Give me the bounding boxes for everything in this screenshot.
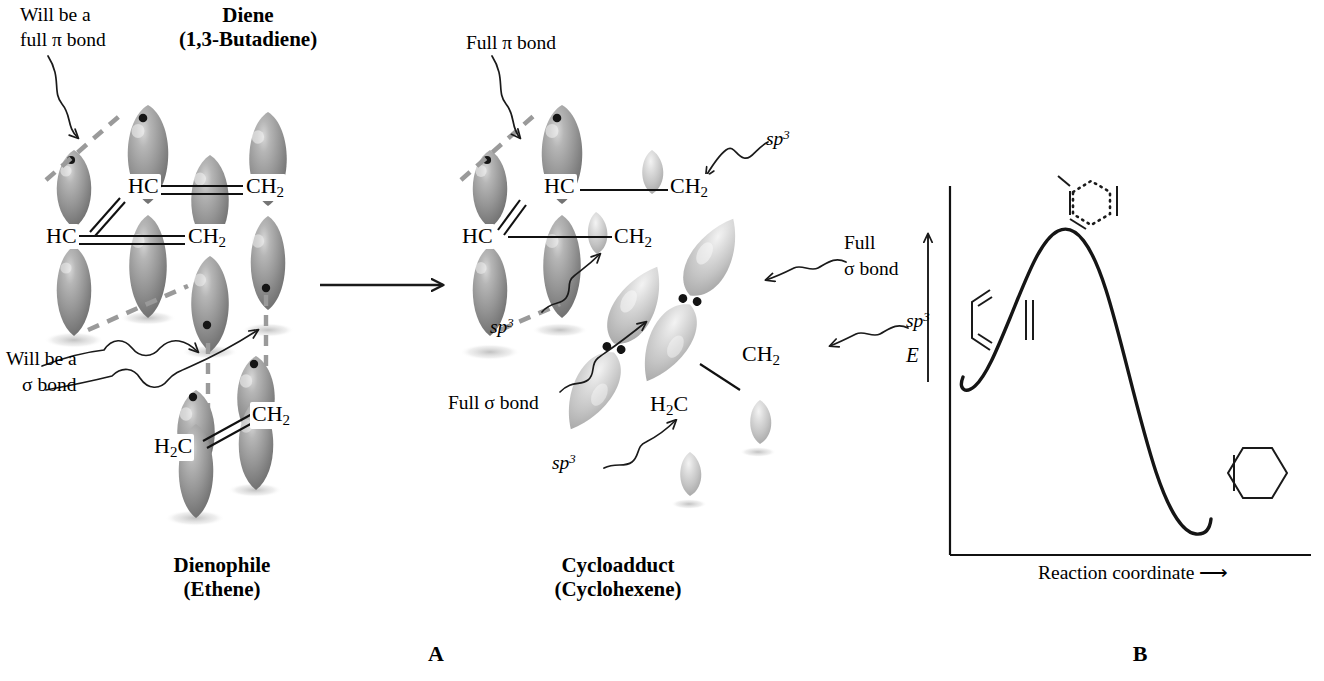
diene-atom-hc-top: HC [126, 174, 161, 199]
electron-dot [139, 114, 148, 123]
will-be-full-pi-line1: Will be a [20, 4, 91, 26]
dienophile-title: Dienophile [174, 554, 271, 578]
adduct-atom-hc-bottom: HC [460, 224, 495, 249]
sp3-hybrid-stub [642, 150, 663, 194]
dienophile-subtitle: (Ethene) [184, 578, 261, 602]
will-be-sigma-line1: Will be a [6, 348, 77, 370]
diene-subtitle: (1,3-Butadiene) [179, 28, 317, 52]
structure-cyclohexene [1228, 448, 1287, 498]
sp3-label-right: sp3 [906, 310, 930, 332]
sp3-hybrid-stub [588, 212, 608, 254]
sp3-label-bottom: sp3 [552, 452, 576, 474]
electron-dot [189, 393, 197, 401]
full-sigma-bond-left-label: Full σ bond [448, 392, 539, 414]
structure-transition-state [1058, 176, 1117, 229]
electron-dot [262, 284, 270, 292]
will-be-full-pi-line2: full π bond [20, 29, 106, 51]
sp3-hybrid-stub [680, 452, 701, 496]
energy-axis-label: E [906, 344, 919, 368]
adduct-atom-ch2-bottom: CH2 [612, 224, 654, 251]
cycloadduct-subtitle: (Cyclohexene) [554, 578, 681, 602]
full-sigma-bond-right-line2: σ bond [844, 258, 898, 280]
full-sigma-bond-right-line1: Full [844, 232, 875, 254]
full-pi-bond-label: Full π bond [466, 32, 556, 54]
panel-a-letter: A [428, 642, 444, 667]
cycloadduct-orbital-group [460, 105, 776, 509]
structure-ethene [1026, 300, 1033, 340]
energy-diagram [928, 176, 1311, 555]
will-be-sigma-line2: σ bond [22, 374, 76, 396]
sp3-label-mid-left: sp3 [490, 316, 514, 338]
cycloadduct-title: Cycloadduct [561, 554, 674, 578]
adduct-atom-ch2-right: CH2 [740, 342, 782, 369]
adduct-atom-ch2-top: CH2 [668, 174, 710, 201]
energy-curve [961, 229, 1211, 534]
adduct-atom-hc-top: HC [542, 174, 577, 199]
electron-dot [553, 114, 562, 123]
panel-b-letter: B [1133, 642, 1148, 667]
adduct-atom-h2c-bottom: H2C [648, 392, 690, 419]
sp3-label-top-right: sp3 [766, 128, 790, 150]
dienophile-atom-ch2: CH2 [250, 402, 292, 429]
electron-dot [203, 321, 211, 329]
diene-title: Diene [222, 4, 273, 28]
structure-butadiene [972, 290, 992, 350]
diene-atom-ch2-bottom: CH2 [186, 224, 228, 251]
diene-atom-ch2-top: CH2 [244, 174, 286, 201]
reaction-coordinate-label: Reaction coordinate ⟶ [1038, 562, 1228, 584]
electron-dot [250, 360, 258, 368]
dienophile-atom-h2c: H2C [152, 434, 194, 461]
diene-atom-hc-bottom: HC [44, 224, 79, 249]
figure-root: Diene (1,3-Butadiene) Will be a full π b… [0, 0, 1324, 681]
sp3-hybrid-stub [750, 400, 771, 444]
